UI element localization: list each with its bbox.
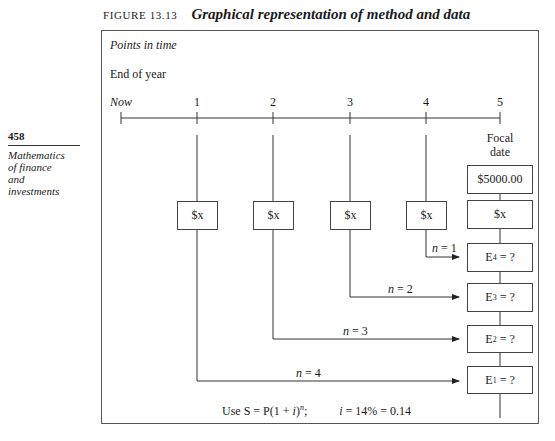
payment-box: $x (253, 201, 294, 230)
timeline-tick-label: 3 (340, 95, 360, 110)
end-of-year-label: End of year (110, 67, 166, 82)
timeline-tick-label: 2 (263, 95, 283, 110)
payment-box: $x (330, 201, 371, 230)
payment-box: $x (406, 201, 447, 230)
equivalent-box-e1: E1 = ? (467, 366, 533, 394)
focal-value-box: $5000.00 (467, 165, 533, 194)
timeline-tick-label: 4 (416, 95, 436, 110)
timeline-now-label: Now (110, 95, 132, 110)
timeline-tick-label: 1 (187, 95, 207, 110)
equivalent-box-e3: E3 = ? (467, 283, 533, 312)
payment-box: $x (177, 201, 218, 230)
timeline-tick-label: 5 (490, 95, 510, 110)
payment-box: $x (467, 200, 533, 229)
focal-date-label: Focal date (465, 131, 535, 159)
equivalent-box-e2: E2 = ? (467, 325, 533, 353)
n-label-4: n = 4 (296, 366, 321, 381)
formula-text: Use S = P(1 + i)n; i = 14% = 0.14 (222, 403, 411, 419)
n-label-1: n = 1 (432, 241, 457, 256)
n-label-2: n = 2 (388, 282, 413, 297)
n-label-3: n = 3 (343, 324, 368, 339)
points-in-time-label: Points in time (110, 38, 177, 53)
equivalent-box-e4: E4 = ? (467, 243, 533, 272)
